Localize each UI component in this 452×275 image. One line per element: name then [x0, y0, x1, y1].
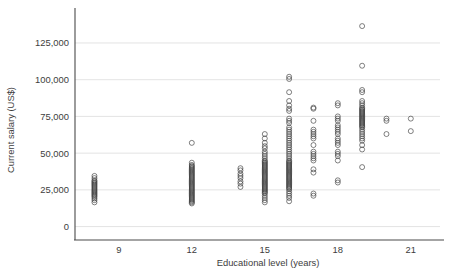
y-tick-label: 50,000	[40, 148, 69, 159]
y-axis-title: Current salary (US$)	[5, 87, 16, 173]
x-tick-label: 18	[333, 244, 343, 255]
y-tick-label: 100,000	[35, 74, 69, 85]
plot-area: 025,00050,00075,000100,000125,000 912151…	[0, 0, 452, 275]
y-tick-label: 0	[64, 221, 69, 232]
x-axis-title: Educational level (years)	[217, 257, 320, 268]
x-tick-label: 15	[260, 244, 270, 255]
scatter-chart-figure: 025,00050,00075,000100,000125,000 912151…	[0, 0, 452, 275]
y-tick-label: 25,000	[40, 184, 69, 195]
y-tick-label: 75,000	[40, 111, 69, 122]
x-tick-label: 12	[187, 244, 197, 255]
y-tick-label: 125,000	[35, 37, 69, 48]
x-tick-label: 9	[116, 244, 121, 255]
x-tick-label: 21	[406, 244, 416, 255]
